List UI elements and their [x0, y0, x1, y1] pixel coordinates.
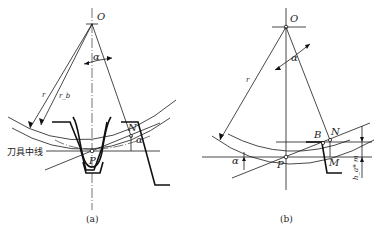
caption-b: (b)	[280, 214, 293, 224]
figure-a: O α r r_b P N α 刀具中线 (a)	[7, 8, 176, 224]
line-to-N	[92, 24, 131, 136]
label-r-b: r	[246, 76, 250, 84]
label-tool-centerline: 刀具中线	[7, 146, 43, 157]
label-alpha2-a: α	[136, 134, 143, 145]
radius-line-r-b	[220, 27, 286, 140]
label-rb-a: r_b	[59, 92, 71, 100]
pitch-point-a	[90, 149, 94, 153]
label-N-a: N	[127, 122, 138, 133]
pitch-point-b	[284, 155, 288, 159]
label-O-b: O	[290, 13, 298, 24]
label-alpha-a: α	[93, 51, 100, 62]
label-N-b: N	[330, 126, 341, 137]
point-N-b	[328, 138, 331, 141]
label-r-a: r	[42, 91, 46, 99]
line-of-action-b	[232, 123, 370, 178]
label-B: B	[313, 129, 321, 140]
radius-line-r	[30, 24, 92, 128]
dim-arrow-top-icon	[360, 137, 364, 142]
label-alpha2-b: α	[232, 155, 239, 166]
line-O-to-N	[286, 27, 330, 140]
angle-arrow-b-right-icon	[305, 44, 310, 49]
label-ham: h_a* m	[352, 155, 360, 180]
label-P-b: P	[276, 159, 284, 170]
angle-arrow-right-icon	[107, 56, 112, 61]
gear-cutting-diagram: O α r r_b P N α 刀具中线 (a)	[0, 0, 374, 234]
alpha-arrow-b-icon	[242, 157, 246, 161]
radius-line-rb	[41, 24, 92, 125]
label-M: M	[328, 157, 340, 168]
arrow-rb-icon	[39, 118, 44, 125]
base-circle-arc-a	[12, 118, 170, 149]
figure-b: O α r P B N M α h_a* m (b)	[202, 8, 374, 224]
point-B	[321, 141, 324, 144]
label-alpha-b: α	[291, 52, 298, 63]
label-O-a: O	[97, 11, 105, 22]
dim-arrow-bottom-icon	[360, 157, 364, 162]
label-P-a: P	[88, 155, 96, 166]
angle-arrow-left-icon	[84, 61, 89, 65]
caption-a: (a)	[86, 214, 98, 224]
